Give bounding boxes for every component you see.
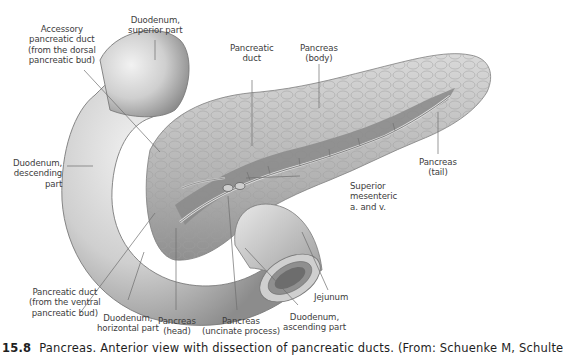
label-line: superior part xyxy=(128,25,182,35)
label-pancreatic-duct: Pancreatic duct xyxy=(230,43,274,64)
label-line: Pancreatic duct xyxy=(29,287,101,297)
label-line: mesenteric xyxy=(350,191,397,201)
label-line: part xyxy=(13,179,62,189)
label-line: horizontal part xyxy=(97,323,159,333)
label-accessory-pancreatic-duct: Accessory pancreatic duct (from the dors… xyxy=(28,24,96,66)
label-line: pancreatic bud) xyxy=(29,308,101,318)
label-line: (body) xyxy=(300,53,338,63)
label-line: (tail) xyxy=(419,167,457,177)
label-line: pancreatic duct xyxy=(28,34,96,44)
label-superior-mesenteric-vessels: Superior mesenteric a. and v. xyxy=(350,181,397,212)
label-line: (head) xyxy=(158,326,196,336)
label-line: Duodenum, xyxy=(13,158,62,168)
label-duodenum-horizontal-part: Duodenum, horizontal part xyxy=(97,313,159,334)
label-line: Pancreas xyxy=(300,43,338,53)
label-line: Pancreas xyxy=(158,316,196,326)
label-line: Duodenum, xyxy=(283,312,346,322)
label-line: (from the ventral xyxy=(29,297,101,307)
label-line: Pancreatic xyxy=(230,43,274,53)
label-line: (uncinate process) xyxy=(202,326,280,336)
figure-caption: 15.8Pancreas. Anterior view with dissect… xyxy=(2,341,563,355)
figure-number: 15.8 xyxy=(2,341,31,355)
label-line: Jejunum xyxy=(314,292,348,302)
label-line: (from the dorsal xyxy=(28,45,96,55)
label-line: Pancreas xyxy=(202,316,280,326)
label-line: Pancreas xyxy=(419,157,457,167)
label-pancreas-head: Pancreas (head) xyxy=(158,316,196,337)
label-pancreas-uncinate-process: Pancreas (uncinate process) xyxy=(202,316,280,337)
label-line: duct xyxy=(230,53,274,63)
label-duodenum-descending-part: Duodenum, descending part xyxy=(13,158,62,189)
label-duodenum-superior-part: Duodenum, superior part xyxy=(128,15,182,36)
label-pancreas-tail: Pancreas (tail) xyxy=(419,157,457,178)
label-line: Duodenum, xyxy=(128,15,182,25)
label-line: a. and v. xyxy=(350,202,397,212)
figure-caption-text: Pancreas. Anterior view with dissection … xyxy=(39,341,563,355)
label-duodenum-ascending-part: Duodenum, ascending part xyxy=(283,312,346,333)
label-line: Superior xyxy=(350,181,397,191)
label-line: descending xyxy=(13,168,62,178)
label-pancreas-body: Pancreas (body) xyxy=(300,43,338,64)
label-line: ascending part xyxy=(283,322,346,332)
label-line: Duodenum, xyxy=(97,313,159,323)
label-line: pancreatic bud) xyxy=(28,55,96,65)
label-line: Accessory xyxy=(28,24,96,34)
label-pancreatic-duct-ventral: Pancreatic duct (from the ventral pancre… xyxy=(29,287,101,318)
label-jejunum: Jejunum xyxy=(314,292,348,302)
